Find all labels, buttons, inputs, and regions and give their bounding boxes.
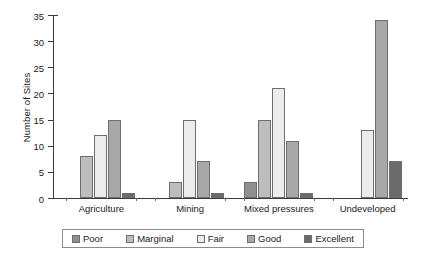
x-axis-tick — [403, 198, 404, 201]
x-axis-label: Agriculture — [79, 203, 124, 214]
bar-group-bars — [155, 15, 225, 198]
legend-label-fair: Fair — [208, 233, 224, 244]
x-axis-spine — [53, 198, 408, 199]
x-axis-tick — [333, 198, 334, 201]
x-axis-label: Mixed pressures — [244, 203, 314, 214]
bar-groups: AgricultureMiningMixed pressuresUndevelo… — [53, 15, 408, 198]
bar-group: Undeveloped — [333, 15, 403, 198]
x-axis-tick — [244, 198, 245, 201]
y-axis-tick-label-30: 30 — [33, 36, 44, 47]
legend-item-fair: Fair — [197, 233, 224, 244]
legend-item-excellent: Excellent — [304, 233, 354, 244]
bar-excellent — [122, 193, 135, 198]
bar-fair — [361, 130, 374, 198]
legend-swatch-marginal — [126, 235, 134, 243]
legend-label-poor: Poor — [83, 233, 103, 244]
legend-label-marginal: Marginal — [137, 233, 173, 244]
bar-group: Mixed pressures — [244, 15, 314, 198]
bar-good — [108, 120, 121, 198]
bar-excellent — [300, 193, 313, 198]
x-axis-tick — [66, 198, 67, 201]
bar-excellent — [389, 161, 402, 198]
legend-item-good: Good — [247, 233, 281, 244]
bar-good — [375, 20, 388, 198]
legend-swatch-poor — [72, 235, 80, 243]
bar-group-bars — [333, 15, 403, 198]
bar-fair — [94, 135, 107, 198]
legend-label-excellent: Excellent — [315, 233, 354, 244]
legend-item-marginal: Marginal — [126, 233, 173, 244]
bar-marginal — [258, 120, 271, 198]
legend-item-poor: Poor — [72, 233, 103, 244]
x-axis-tick — [225, 198, 226, 201]
bar-excellent — [211, 193, 224, 198]
bar-good — [286, 141, 299, 199]
y-axis-tick-label-25: 25 — [33, 62, 44, 73]
plot-area: 05101520253035 AgricultureMiningMixed pr… — [53, 15, 408, 198]
y-axis-tick-label-10: 10 — [33, 141, 44, 152]
bar-poor — [244, 182, 257, 198]
y-axis-tick-label-15: 15 — [33, 115, 44, 126]
bar-group-bars — [244, 15, 314, 198]
bar-group-bars — [66, 15, 136, 198]
y-axis-tick-label-0: 0 — [39, 193, 44, 204]
bar-group: Mining — [155, 15, 225, 198]
y-axis-tick-0: 0 — [48, 198, 53, 199]
x-axis-label: Mining — [176, 203, 204, 214]
y-axis-title: Number of Sites — [21, 38, 32, 178]
x-axis-tick — [155, 198, 156, 201]
x-axis-label: Undeveloped — [340, 203, 396, 214]
chart-legend: Poor Marginal Fair Good Excellent — [62, 229, 364, 248]
bar-good — [197, 161, 210, 198]
x-axis-tick — [136, 198, 137, 201]
bar-fair — [183, 120, 196, 198]
y-axis-tick-label-35: 35 — [33, 10, 44, 21]
legend-swatch-excellent — [304, 235, 312, 243]
legend-label-good: Good — [258, 233, 281, 244]
legend-swatch-good — [247, 235, 255, 243]
bar-group: Agriculture — [66, 15, 136, 198]
bar-chart: Number of Sites 05101520253035 Agricultu… — [0, 0, 425, 261]
bar-marginal — [80, 156, 93, 198]
x-axis-tick — [314, 198, 315, 201]
bar-fair — [272, 88, 285, 198]
legend-swatch-fair — [197, 235, 205, 243]
bar-marginal — [169, 182, 182, 198]
y-axis-tick-label-20: 20 — [33, 88, 44, 99]
y-axis-tick-label-5: 5 — [39, 167, 44, 178]
